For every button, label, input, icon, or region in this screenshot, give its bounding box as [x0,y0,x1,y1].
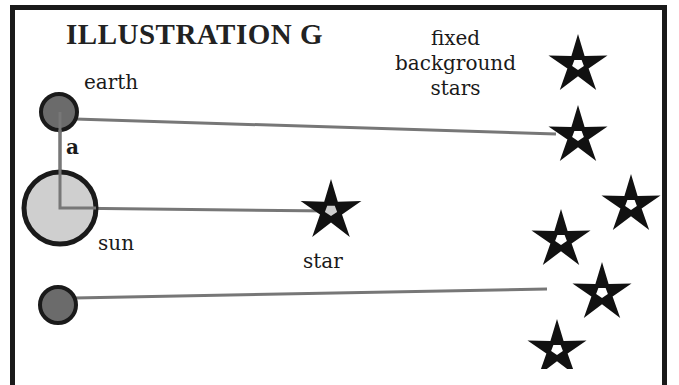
parallax-angle-label: a [66,137,79,157]
background-label-line: stars [395,76,516,101]
background-label-line: background [395,51,516,76]
near-star-label: star [303,251,343,271]
sight-line [75,119,556,134]
earth-label: earth [84,72,138,92]
solar-bodies [24,94,96,323]
sun-label: sun [98,233,134,253]
sight-line [74,289,547,298]
earth-position-2 [40,287,76,323]
illustration-title: ILLUSTRATION G [66,20,323,49]
sight-line [60,208,331,211]
background-label-line: fixed [395,26,516,51]
background-stars-label: fixed background stars [395,26,516,101]
background-star-icon [528,319,587,369]
